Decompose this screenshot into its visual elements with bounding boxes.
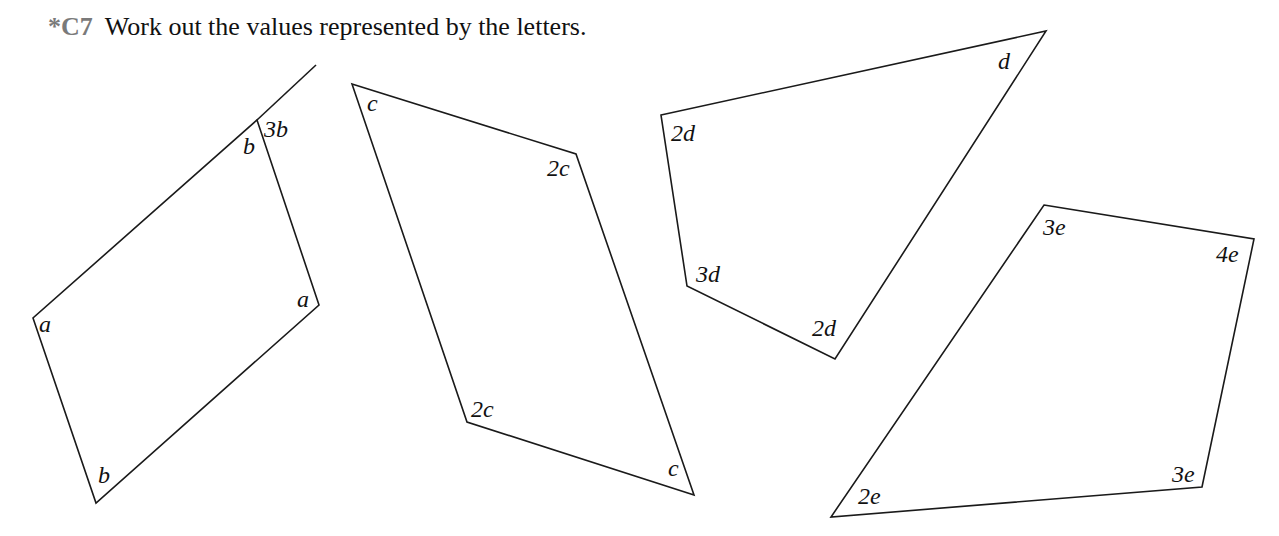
angle-label: c bbox=[367, 90, 378, 116]
angle-label: 2e bbox=[858, 483, 881, 509]
parallelogram-outline bbox=[352, 84, 694, 495]
angle-label: c bbox=[668, 455, 679, 481]
angle-label: b bbox=[98, 462, 110, 488]
quadrilateral-outline bbox=[33, 120, 319, 503]
angle-label: 2d bbox=[812, 315, 837, 341]
angle-label: 2d bbox=[671, 120, 696, 146]
shape-d: 2d d 3d 2d bbox=[661, 31, 1046, 359]
exterior-angle-label: 3b bbox=[263, 116, 288, 142]
extension-line bbox=[257, 65, 316, 120]
angle-label: 2c bbox=[547, 155, 570, 181]
angle-label: 4e bbox=[1216, 241, 1239, 267]
quadrilateral-outline bbox=[661, 31, 1046, 359]
angle-label: 3d bbox=[695, 261, 721, 287]
angle-label: 2c bbox=[471, 396, 494, 422]
angle-label: b bbox=[243, 133, 255, 159]
shape-c: c 2c 2c c bbox=[352, 84, 694, 495]
angle-label: a bbox=[39, 311, 51, 337]
angle-label: 3e bbox=[1042, 214, 1066, 240]
angle-label: a bbox=[297, 286, 309, 312]
shape-e: 3e 4e 3e 2e bbox=[831, 205, 1254, 517]
shape-a-b: b 3b a a b bbox=[33, 65, 319, 503]
angle-figures: b 3b a a b c 2c 2c c 2d d 3d 2d 3e 4e 3e… bbox=[0, 0, 1279, 536]
angle-label: 3e bbox=[1171, 461, 1195, 487]
angle-label: d bbox=[998, 48, 1011, 74]
